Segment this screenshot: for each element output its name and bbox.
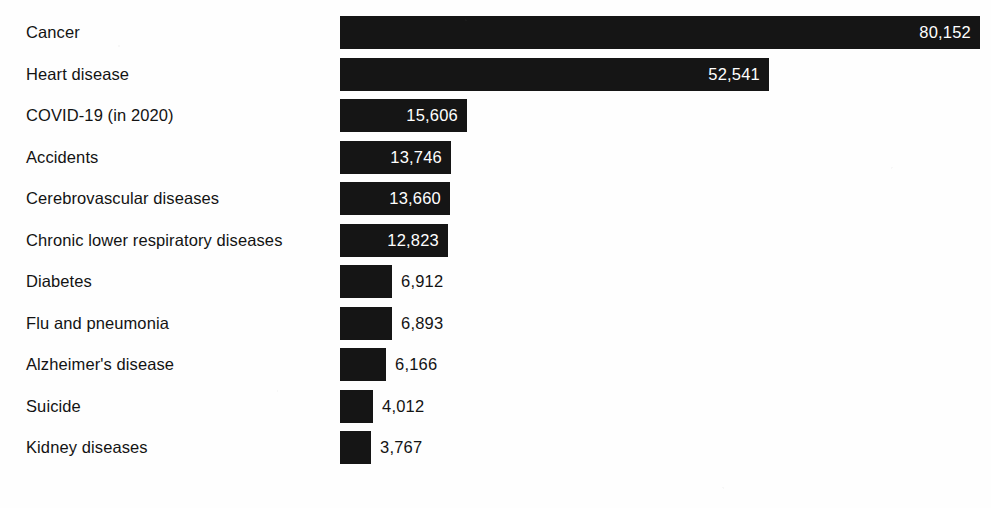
chart-row: Alzheimer's disease6,166 [0, 344, 991, 385]
chart-rows-container: Cancer80,152Heart disease52,541COVID-19 … [0, 0, 991, 508]
bar-value-label: 3,767 [380, 431, 422, 464]
chart-row: Flu and pneumonia6,893 [0, 303, 991, 344]
bar [340, 265, 392, 298]
category-label: Accidents [26, 137, 98, 178]
category-label: Diabetes [26, 261, 92, 302]
chart-row: COVID-19 (in 2020)15,606 [0, 95, 991, 136]
category-label: Alzheimer's disease [26, 344, 174, 385]
bar-value-label: 80,152 [919, 16, 971, 49]
chart-row: Suicide4,012 [0, 386, 991, 427]
bar-value-label: 4,012 [382, 390, 424, 423]
chart-row: Kidney diseases3,767 [0, 427, 991, 468]
chart-row: Cerebrovascular diseases13,660 [0, 178, 991, 219]
chart-row: Cancer80,152 [0, 12, 991, 53]
bar-value-label: 15,606 [406, 99, 458, 132]
bar [340, 307, 392, 340]
bar: 52,541 [340, 58, 769, 91]
bar: 13,660 [340, 182, 450, 215]
bar-value-label: 13,746 [390, 141, 442, 174]
chart-row: Accidents13,746 [0, 137, 991, 178]
bar-chart: Cancer80,152Heart disease52,541COVID-19 … [0, 0, 991, 508]
bar-value-label: 13,660 [389, 182, 441, 215]
chart-row: Heart disease52,541 [0, 54, 991, 95]
bar: 80,152 [340, 16, 980, 49]
bar-value-label: 12,823 [387, 224, 439, 257]
chart-row: Chronic lower respiratory diseases12,823 [0, 220, 991, 261]
bar [340, 348, 386, 381]
category-label: COVID-19 (in 2020) [26, 95, 174, 136]
category-label: Chronic lower respiratory diseases [26, 220, 283, 261]
bar [340, 431, 371, 464]
bar-value-label: 6,893 [401, 307, 443, 340]
category-label: Flu and pneumonia [26, 303, 169, 344]
bar [340, 390, 373, 423]
chart-row: Diabetes6,912 [0, 261, 991, 302]
category-label: Cerebrovascular diseases [26, 178, 219, 219]
category-label: Suicide [26, 386, 81, 427]
bar: 13,746 [340, 141, 451, 174]
category-label: Kidney diseases [26, 427, 148, 468]
bar: 15,606 [340, 99, 467, 132]
bar-value-label: 52,541 [708, 58, 760, 91]
category-label: Cancer [26, 12, 80, 53]
category-label: Heart disease [26, 54, 129, 95]
bar: 12,823 [340, 224, 448, 257]
bar-value-label: 6,912 [401, 265, 443, 298]
bar-value-label: 6,166 [395, 348, 437, 381]
